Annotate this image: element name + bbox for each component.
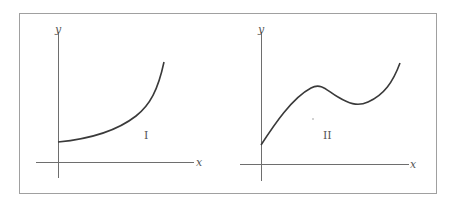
panel-ii-x-axis-label: x	[410, 158, 417, 171]
panel-i-x-axis-label: x	[196, 156, 203, 169]
panel-i-y-axis-label: y	[54, 23, 62, 36]
figure-frame	[20, 14, 437, 194]
panel-ii-speck	[312, 118, 314, 120]
panel-i: y x I	[36, 23, 203, 178]
panel-ii: y x II	[240, 23, 417, 181]
figure: y x I y x II	[0, 0, 455, 205]
panel-i-label: I	[144, 129, 148, 142]
panel-ii-label: II	[323, 129, 332, 142]
panel-ii-y-axis-label: y	[257, 23, 265, 36]
